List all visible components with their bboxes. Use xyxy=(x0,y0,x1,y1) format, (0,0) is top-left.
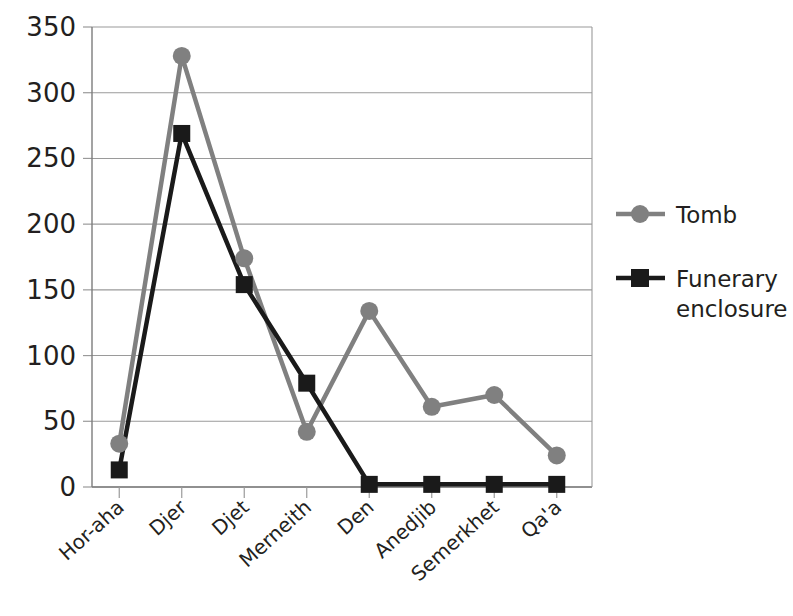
data-point-marker xyxy=(110,435,128,453)
y-axis-tick-label: 0 xyxy=(59,472,76,502)
data-point-marker xyxy=(236,276,253,293)
legend-square-marker xyxy=(631,269,649,287)
y-axis-tick-label: 250 xyxy=(26,143,76,173)
data-point-marker xyxy=(423,398,441,416)
data-point-marker xyxy=(235,249,253,267)
y-axis-tick-label: 300 xyxy=(26,78,76,108)
data-point-marker xyxy=(361,476,378,493)
y-axis-tick-label: 150 xyxy=(26,275,76,305)
data-point-marker xyxy=(423,476,440,493)
legend-label: Funerary xyxy=(676,266,778,292)
data-point-marker xyxy=(173,47,191,65)
data-point-marker xyxy=(298,375,315,392)
data-point-marker xyxy=(548,446,566,464)
legend-label: Tomb xyxy=(675,202,737,228)
data-point-marker xyxy=(298,423,316,441)
data-point-marker xyxy=(111,461,128,478)
data-point-marker xyxy=(548,476,565,493)
legend-circle-marker xyxy=(631,205,649,223)
line-chart: 050100150200250300350 Hor-ahaDjerDjetMer… xyxy=(0,0,793,616)
y-axis-tick-label: 200 xyxy=(26,209,76,239)
chart-container: 050100150200250300350 Hor-ahaDjerDjetMer… xyxy=(0,0,793,616)
data-point-marker xyxy=(173,125,190,142)
legend-label-line2: enclosure xyxy=(676,296,788,322)
y-axis-tick-label: 100 xyxy=(26,341,76,371)
data-point-marker xyxy=(485,386,503,404)
y-axis-tick-label: 50 xyxy=(43,406,76,436)
data-point-marker xyxy=(486,476,503,493)
y-axis-tick-label: 350 xyxy=(26,12,76,42)
data-point-marker xyxy=(360,302,378,320)
